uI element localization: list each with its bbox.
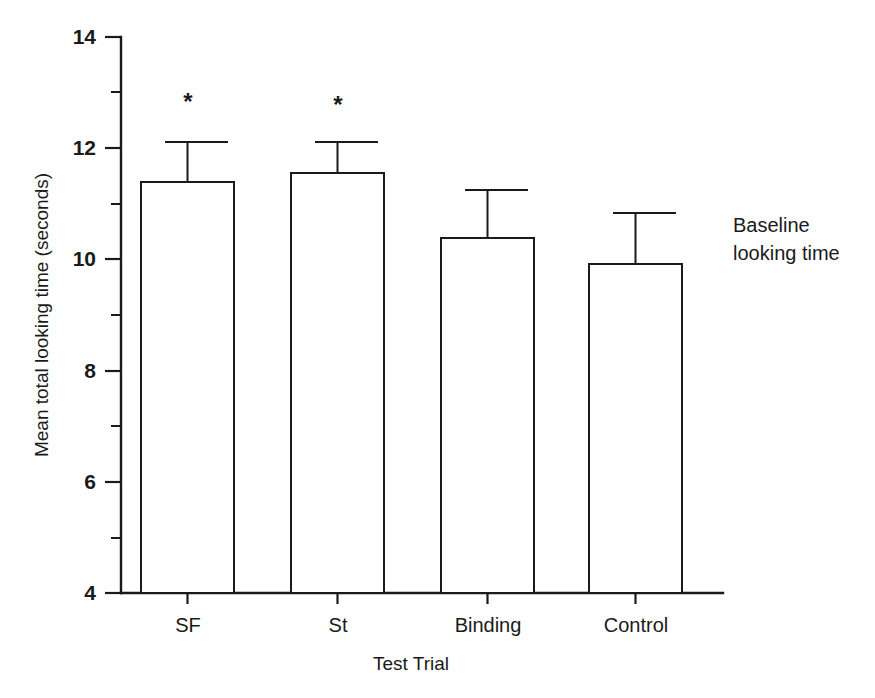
y-tick-label-12: 12 — [73, 136, 96, 159]
significance-markers-group: * * — [183, 88, 343, 118]
x-tick-label-binding: Binding — [455, 614, 522, 636]
y-axis-tick-labels: 14 12 10 8 6 4 — [73, 25, 97, 604]
chart-page: 14 12 10 8 6 4 Mean total looking time (… — [0, 0, 875, 698]
y-axis-title: Mean total looking time (seconds) — [31, 173, 52, 457]
error-bar-st — [315, 142, 378, 173]
bar-binding[interactable] — [441, 238, 534, 593]
y-axis-minor-ticks — [111, 92, 121, 538]
annotation-line-2: looking time — [733, 242, 840, 264]
y-tick-label-4: 4 — [84, 581, 96, 604]
y-tick-label-14: 14 — [73, 25, 97, 48]
y-tick-label-8: 8 — [84, 359, 96, 382]
baseline-looking-time-annotation: Baseline looking time — [733, 214, 840, 264]
x-axis-tick-labels: SF St Binding Control — [175, 614, 668, 636]
bars-group — [141, 173, 682, 593]
error-bars-group — [165, 142, 676, 264]
annotation-line-1: Baseline — [733, 214, 810, 236]
x-tick-label-sf: SF — [175, 614, 201, 636]
significance-star-sf: * — [183, 88, 193, 115]
x-axis-ticks — [188, 593, 636, 604]
x-tick-label-control: Control — [604, 614, 668, 636]
x-axis-title: Test Trial — [373, 653, 449, 674]
error-bar-sf — [165, 142, 228, 182]
bar-sf[interactable] — [141, 182, 234, 593]
y-tick-label-6: 6 — [84, 470, 96, 493]
y-tick-label-10: 10 — [73, 247, 96, 270]
error-bar-binding — [465, 190, 528, 238]
significance-star-st: * — [333, 91, 343, 118]
bar-control[interactable] — [589, 264, 682, 593]
x-tick-label-st: St — [329, 614, 348, 636]
bar-st[interactable] — [291, 173, 384, 593]
bar-chart-figure: 14 12 10 8 6 4 Mean total looking time (… — [0, 0, 875, 698]
error-bar-control — [613, 213, 676, 264]
